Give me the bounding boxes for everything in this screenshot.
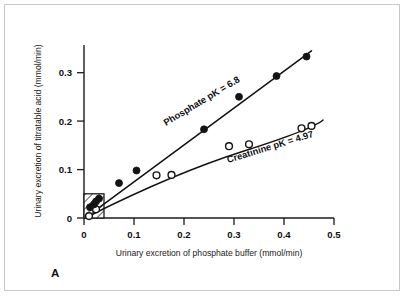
- x-tick-label-0.3: 0.3: [227, 229, 240, 240]
- y-tick-label-0.3: 0.3: [59, 67, 72, 78]
- panel-label: A: [51, 267, 59, 279]
- y-tick-label-0.2: 0.2: [59, 116, 72, 127]
- caption-strip: [0, 299, 416, 307]
- x-tick-label-0: 0: [81, 229, 86, 240]
- chart-canvas: 0 0.1 0.2 0.3 0 0.1 0.2 0.3 0.4 0.5 Urin…: [5, 5, 401, 292]
- x-axis-ticks: [84, 218, 334, 225]
- x-tick-label-0.4: 0.4: [277, 229, 291, 240]
- phosphate-series-label: Phosphate pK = 6.8: [161, 74, 241, 128]
- y-axis-ticks: [77, 73, 84, 218]
- x-tick-label-0.5: 0.5: [327, 229, 341, 240]
- y-tick-label-0.1: 0.1: [59, 164, 73, 175]
- y-axis-title: Urinary excretion of titratable acid (mm…: [33, 44, 43, 217]
- creatinine-series-label: Creatinine pK = 4.97: [225, 128, 314, 165]
- x-tick-label-0.2: 0.2: [177, 229, 190, 240]
- figure-frame: 0 0.1 0.2 0.3 0 0.1 0.2 0.3 0.4 0.5 Urin…: [4, 4, 400, 291]
- x-axis-title: Urinary excretion of phosphate buffer (m…: [116, 248, 303, 258]
- phosphate-points: [87, 53, 311, 211]
- y-tick-label-0: 0: [67, 213, 72, 224]
- x-tick-label-0.1: 0.1: [127, 229, 141, 240]
